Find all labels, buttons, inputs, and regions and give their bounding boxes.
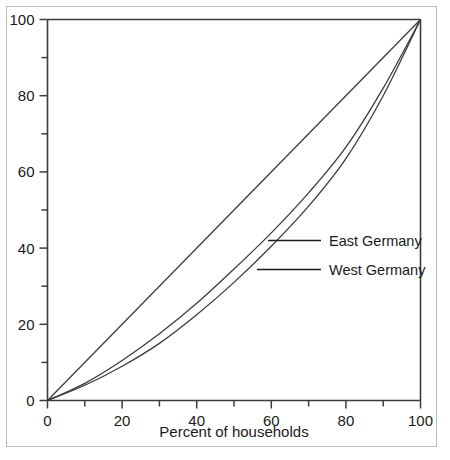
x-tick-label: 80: [338, 412, 355, 429]
x-tick-label: 0: [43, 412, 51, 429]
legend-label-east-germany: East Germany: [329, 233, 422, 249]
legend-label-west-germany: West Germany: [329, 262, 426, 278]
y-axis-tick-labels: 020406080100: [9, 11, 34, 409]
x-axis-minor-ticks: [85, 401, 383, 407]
y-axis-minor-ticks: [42, 58, 48, 363]
y-tick-label: 100: [9, 11, 34, 28]
lorenz-curve-chart: 020406080100 020406080100 East Germany W…: [0, 0, 450, 460]
x-axis-title: Percent of households: [159, 423, 308, 440]
y-tick-label: 80: [18, 87, 35, 104]
figure: 020406080100 020406080100 East Germany W…: [0, 0, 450, 460]
x-tick-label: 100: [408, 412, 433, 429]
y-tick-label: 20: [18, 316, 35, 333]
x-tick-label: 20: [114, 412, 131, 429]
y-tick-label: 40: [18, 240, 35, 257]
legend-leader-lines: [257, 241, 321, 270]
y-tick-label: 60: [18, 163, 35, 180]
data-series-group: [48, 20, 421, 401]
series-line-line-of-equality: [48, 20, 421, 401]
y-tick-label: 0: [26, 392, 34, 409]
